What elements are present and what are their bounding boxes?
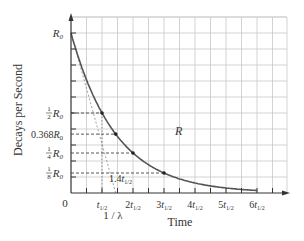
svg-text:4: 4 <box>47 153 51 161</box>
origin-label: 0 <box>62 197 68 209</box>
svg-text:1: 1 <box>47 145 51 153</box>
x-axis-title: Time <box>168 215 193 229</box>
y-tick-eighth-r0: 1 8 R0 <box>46 165 64 181</box>
x-tick-3-half-life: 3t1/2 <box>156 199 171 211</box>
svg-text:R0: R0 <box>52 147 64 161</box>
x-axis-arrow-icon <box>282 191 290 196</box>
y-axis-title: Decays per Second <box>11 64 25 156</box>
x-tick-4-half-life: 4t1/2 <box>187 199 202 211</box>
x-tick-5-half-life: 5t1/2 <box>218 199 233 211</box>
svg-text:1: 1 <box>47 165 51 173</box>
svg-text:R0: R0 <box>52 107 64 121</box>
one-point-four-half-life-label: 1.4t1/2 <box>109 173 132 185</box>
svg-text:R0: R0 <box>52 167 64 181</box>
svg-text:1: 1 <box>47 105 51 113</box>
curve-label-r: R <box>174 124 183 138</box>
x-tick-6-half-life: 6t1/2 <box>249 199 264 211</box>
one-over-lambda-label: 1 / λ <box>103 209 123 221</box>
grid <box>71 17 287 193</box>
y-tick-r0: R0 <box>52 27 64 41</box>
svg-text:2: 2 <box>47 113 51 121</box>
y-tick-quarter-r0: 1 4 R0 <box>46 145 64 161</box>
x-tick-2-half-life: 2t1/2 <box>125 199 140 211</box>
y-tick-half-r0: 1 2 R0 <box>46 105 64 121</box>
decay-chart: R0 1 2 R0 0.368R0 1 4 R0 1 8 R0 Decays p… <box>0 0 304 241</box>
y-tick-0368-r0: 0.368R0 <box>31 129 64 142</box>
svg-text:8: 8 <box>47 173 51 181</box>
